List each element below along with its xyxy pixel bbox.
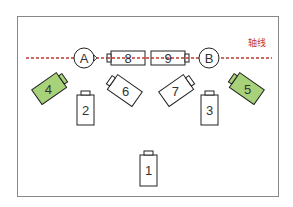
battery-6-label: 6: [122, 84, 129, 99]
battery-3-label: 3: [206, 103, 213, 118]
battery-9: 9: [151, 51, 189, 66]
battery-4-label: 4: [45, 82, 52, 97]
point-b: B: [199, 48, 219, 68]
point-a-label: A: [80, 51, 89, 66]
battery-2-label: 2: [82, 103, 89, 118]
axis-label: 轴线: [248, 37, 266, 48]
battery-5-label: 5: [244, 82, 251, 97]
battery-1-label: 1: [145, 163, 152, 178]
battery-8: 8: [107, 51, 145, 66]
battery-arrangement-diagram: 轴线 8 9 A B 4 5 6: [0, 0, 293, 207]
battery-8-label: 8: [124, 51, 131, 66]
battery-2: 2: [77, 91, 94, 125]
battery-9-label: 9: [164, 51, 171, 66]
battery-7-label: 7: [172, 84, 179, 99]
point-b-label: B: [205, 51, 214, 66]
battery-3: 3: [201, 91, 218, 125]
battery-1: 1: [140, 151, 157, 186]
